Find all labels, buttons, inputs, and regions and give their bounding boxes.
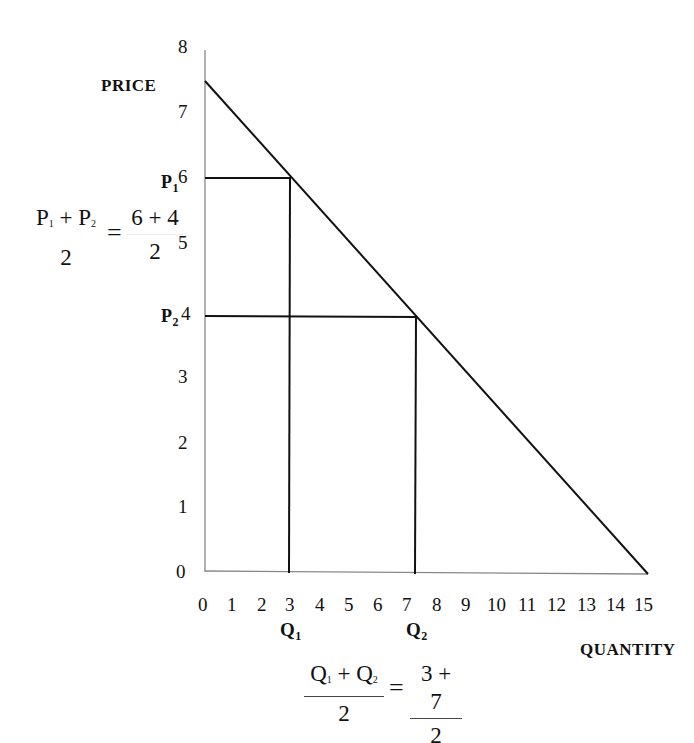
- p1-term: P: [36, 205, 49, 230]
- plus-sign: +: [332, 661, 356, 686]
- quantity-midpoint-lhs: Q1 + Q2 2: [304, 660, 384, 731]
- y-axis-title: PRICE: [101, 76, 156, 96]
- q1-letter: Q: [280, 619, 295, 640]
- x-tick-7: 7: [402, 594, 412, 616]
- x-axis: [205, 571, 648, 574]
- y-tick-0: 0: [176, 561, 186, 583]
- x-tick-5: 5: [344, 594, 354, 616]
- x-tick-0: 0: [198, 594, 208, 616]
- price-lhs-denominator: 2: [30, 241, 102, 275]
- q1-subscript: 1: [295, 629, 302, 643]
- q2-letter: Q: [406, 619, 421, 640]
- demand-chart: [0, 0, 694, 743]
- q2-label: Q2: [406, 619, 428, 644]
- p2-term: P: [78, 205, 91, 230]
- x-tick-8: 8: [432, 594, 442, 616]
- x-tick-9: 9: [461, 594, 471, 616]
- x-axis-title: QUANTITY: [580, 640, 676, 660]
- x-tick-3: 3: [285, 594, 295, 616]
- p1-subscript: 1: [173, 181, 180, 195]
- p2-term-sub: 2: [91, 218, 96, 229]
- quantity-rhs-numerator: 3 + 7: [410, 660, 462, 719]
- quantity-lhs-denominator: 2: [304, 697, 384, 731]
- x-tick-15: 15: [634, 594, 653, 616]
- q2-guide: [415, 317, 416, 574]
- p1-label: P1: [161, 172, 179, 196]
- p2-guide: [205, 316, 417, 317]
- price-rhs-denominator: 2: [127, 235, 183, 269]
- x-tick-11: 11: [518, 594, 536, 616]
- y-tick-7: 7: [178, 101, 188, 123]
- x-tick-2: 2: [257, 594, 267, 616]
- y-tick-2: 2: [178, 432, 188, 454]
- x-tick-4: 4: [315, 594, 325, 616]
- y-tick-4: 4: [181, 303, 191, 325]
- x-tick-13: 13: [577, 594, 596, 616]
- quantity-midpoint-rhs: 3 + 7 2: [410, 660, 462, 743]
- x-tick-6: 6: [373, 594, 383, 616]
- quantity-equals-sign: =: [389, 673, 404, 703]
- q1-guide: [289, 178, 290, 573]
- q1-label: Q1: [280, 619, 302, 644]
- y-tick-8: 8: [178, 36, 188, 58]
- x-tick-14: 14: [606, 594, 625, 616]
- q2-term-sub: 2: [373, 674, 378, 685]
- price-midpoint-lhs: P1 + P2 2: [30, 204, 102, 275]
- y-tick-3: 3: [178, 366, 188, 388]
- y-tick-6: 6: [178, 166, 188, 188]
- q2-term: Q: [356, 661, 373, 686]
- p2-letter: P: [161, 306, 173, 326]
- x-tick-1: 1: [227, 594, 237, 616]
- price-midpoint-rhs: 6 + 4 2: [127, 204, 183, 269]
- p1-letter: P: [161, 172, 173, 192]
- q1-term: Q: [310, 661, 327, 686]
- q2-subscript: 2: [421, 629, 428, 643]
- demand-curve: [205, 81, 648, 574]
- price-rhs-numerator: 6 + 4: [127, 204, 183, 235]
- x-tick-12: 12: [547, 594, 566, 616]
- p2-label: P2: [161, 306, 179, 330]
- plus-sign: +: [54, 205, 78, 230]
- p2-subscript: 2: [173, 315, 180, 329]
- price-equals-sign: =: [107, 218, 122, 248]
- x-tick-10: 10: [487, 594, 506, 616]
- y-tick-1: 1: [178, 496, 188, 518]
- quantity-rhs-denominator: 2: [410, 719, 462, 743]
